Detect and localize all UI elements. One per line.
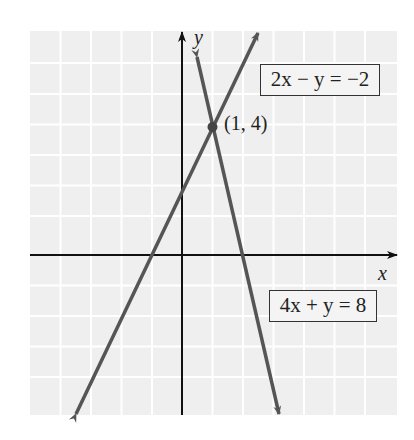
intersection-label: (1, 4) [224, 112, 267, 135]
intersection-point [208, 122, 218, 132]
equation-box-1: 2x − y = −2 [260, 64, 380, 96]
equation-box-2: 4x + y = 8 [269, 290, 377, 322]
x-axis-label: x [378, 262, 387, 285]
y-axis-label: y [194, 26, 203, 49]
